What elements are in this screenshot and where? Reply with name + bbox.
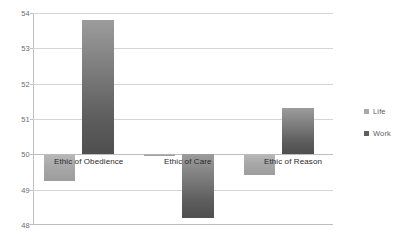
work-swatch-icon xyxy=(364,131,369,136)
category-label-reason: Ethic of Reason xyxy=(264,157,322,166)
legend-item-life[interactable]: Life xyxy=(364,104,409,118)
bar-care-life xyxy=(144,154,175,156)
plot-area: Ethic of Obedience Ethic of Care Ethic o… xyxy=(33,13,333,225)
gridline-52 xyxy=(33,84,333,85)
y-axis-label-50: 50 xyxy=(4,150,30,159)
tick-54 xyxy=(30,13,33,14)
bar-chart: 54 53 52 51 50 49 48 xyxy=(0,0,409,239)
gridline-54 xyxy=(33,13,333,14)
chart-legend: Life Work xyxy=(364,104,409,148)
gridline-53 xyxy=(33,48,333,49)
legend-label-work: Work xyxy=(373,129,391,138)
tick-52 xyxy=(30,84,33,85)
y-axis-label-54: 54 xyxy=(4,9,30,18)
bar-reason-work xyxy=(282,108,314,154)
category-label-care: Ethic of Care xyxy=(164,157,212,166)
legend-label-life: Life xyxy=(373,107,386,116)
tick-53 xyxy=(30,48,33,49)
y-axis-label-51: 51 xyxy=(4,115,30,124)
tick-49 xyxy=(30,190,33,191)
legend-item-work[interactable]: Work xyxy=(364,126,409,140)
tick-48 xyxy=(30,224,33,225)
tick-50 xyxy=(30,154,33,155)
y-axis-label-49: 49 xyxy=(4,185,30,194)
y-axis-label-48: 48 xyxy=(4,221,30,230)
tick-51 xyxy=(30,119,33,120)
bar-obedience-work xyxy=(82,20,114,154)
y-axis-label-53: 53 xyxy=(4,44,30,53)
gridline-48 xyxy=(33,224,333,225)
y-axis-labels: 54 53 52 51 50 49 48 xyxy=(0,13,30,225)
life-swatch-icon xyxy=(364,109,369,114)
y-axis-label-52: 52 xyxy=(4,79,30,88)
category-label-obedience: Ethic of Obedience xyxy=(54,157,123,166)
